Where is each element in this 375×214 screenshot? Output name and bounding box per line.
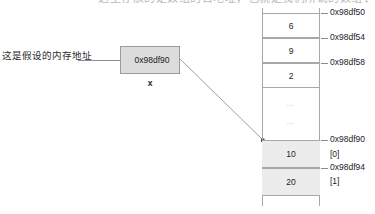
memory-address-label: 0x98df94: [330, 162, 365, 172]
array-index-label: [0]: [330, 149, 339, 159]
memory-cell: 9: [262, 38, 320, 63]
memory-cell: 20: [262, 168, 320, 196]
memory-address-label: 0x98df58: [330, 57, 365, 67]
pointer-variable-name: x: [120, 78, 180, 88]
memory-cell-ellipsis: …: [262, 95, 320, 111]
array-index-label: [1]: [330, 176, 339, 186]
memory-address-label: 0x98df54: [330, 32, 365, 42]
pointer-variable-box: 0x98df90: [120, 46, 180, 74]
address-tick-mark: [321, 168, 328, 169]
cutoff-heading-text: 这里存放的是数组的首地址，也就是我们所说的数组名: [98, 0, 368, 5]
pointer-value-text: 0x98df90: [121, 55, 179, 65]
memory-cell: 6: [262, 13, 320, 38]
memory-address-label: 0x98df50: [330, 7, 365, 17]
memory-cell-ellipsis: …: [262, 113, 320, 129]
memory-cell: 2: [262, 63, 320, 88]
address-tick-mark: [321, 38, 328, 39]
memory-cell: 10: [262, 140, 320, 168]
address-tick-mark: [321, 140, 328, 141]
annotation-leader-line: [78, 60, 122, 61]
diagram-canvas: 这里存放的是数组的首地址，也就是我们所说的数组名 这是假设的内存地址 0x98d…: [0, 0, 375, 214]
address-tick-mark: [321, 13, 328, 14]
address-tick-mark: [321, 63, 328, 64]
memory-address-label: 0x98df90: [330, 134, 365, 144]
